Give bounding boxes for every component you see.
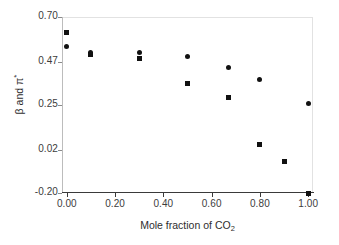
x-tick-label: 0.60: [192, 198, 232, 209]
x-tick-label: 0.40: [143, 198, 183, 209]
y-tick-label: 0.70: [18, 10, 58, 21]
x-tick-label: 0.20: [95, 198, 135, 209]
data-point-beta-marker: [257, 142, 262, 147]
x-tick-label: 0.80: [240, 198, 280, 209]
plot-area: [62, 17, 313, 193]
x-tick-label: 0.00: [47, 198, 87, 209]
x-tick-mark: [67, 193, 68, 197]
x-tick-mark: [212, 193, 213, 197]
x-axis-title: Mole fraction of CO2: [62, 219, 313, 233]
data-point-beta-marker: [137, 56, 142, 61]
data-point-pi-marker: [185, 54, 190, 59]
y-tick-mark: [58, 105, 62, 106]
data-point-beta-marker: [282, 159, 287, 164]
data-point-pi-marker: [306, 101, 311, 106]
scatter-chart-figure: 0.000.200.400.600.801.00 0.700.470.250.0…: [0, 0, 339, 245]
x-axis-title-subscript: 2: [231, 224, 235, 233]
x-tick-mark: [260, 193, 261, 197]
y-axis-line: [62, 17, 63, 193]
y-tick-mark: [58, 17, 62, 18]
y-tick-label: -0.20: [18, 186, 58, 197]
data-point-beta-marker: [88, 52, 93, 57]
y-tick-mark: [58, 62, 62, 63]
y-tick-mark: [58, 193, 62, 194]
x-axis-line: [62, 192, 314, 193]
x-tick-mark: [163, 193, 164, 197]
data-point-pi-marker: [137, 50, 142, 55]
x-tick-label: 1.00: [288, 198, 328, 209]
y-tick-mark: [58, 150, 62, 151]
data-point-beta-marker: [306, 191, 311, 196]
x-tick-mark: [115, 193, 116, 197]
data-point-beta-marker: [64, 30, 69, 35]
y-axis-title-superscript: *: [12, 75, 21, 78]
data-point-beta-marker: [226, 95, 231, 100]
y-axis-title: β and π*: [12, 35, 25, 155]
data-point-beta-marker: [185, 81, 190, 86]
